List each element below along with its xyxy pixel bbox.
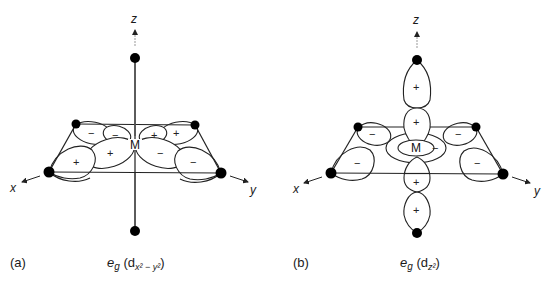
sign-top-inner: +	[413, 116, 419, 128]
sign-bottom-inner: +	[413, 176, 419, 188]
ligand-back-left	[354, 123, 363, 132]
ligand-bottom	[412, 228, 422, 238]
octahedral-eg-orbitals-diagram: z x y − − + + + + −	[0, 0, 558, 282]
sign-back-inner-left: −	[112, 129, 118, 141]
lobe-front-right	[460, 148, 503, 181]
sign-back-right: −	[455, 128, 461, 140]
sign-front-inner-right: −	[157, 147, 163, 159]
ligand-top	[130, 53, 140, 63]
sign-front-right: −	[190, 156, 196, 168]
panel-b: z x y + + + + − − − − − M	[292, 13, 541, 272]
sign-front-left: −	[354, 157, 360, 169]
sign-top-outer: +	[413, 81, 419, 93]
sign-back-left: −	[88, 127, 94, 139]
x-axis-arrow-icon	[22, 176, 40, 182]
ligand-front-left	[44, 167, 55, 178]
y-axis-arrow-icon	[512, 177, 530, 183]
x-axis-arrow-icon	[304, 177, 322, 183]
sign-front-inner-left: +	[107, 147, 113, 159]
y-axis-arrow-icon	[230, 176, 248, 182]
sign-bottom-outer: +	[413, 204, 419, 216]
sign-back-inner-right: +	[151, 129, 157, 141]
panel-tag-a: (a)	[10, 255, 26, 270]
panel-tag-b: (b)	[293, 255, 309, 270]
ligand-top	[412, 55, 422, 65]
ligand-back-right	[472, 123, 481, 132]
metal-center-label: M	[130, 138, 140, 152]
sign-torus: −	[432, 142, 438, 154]
z-axis-label: z	[412, 13, 419, 27]
x-axis-label: x	[292, 182, 300, 196]
ligand-back-right	[191, 121, 200, 130]
sign-front-right: −	[474, 157, 480, 169]
sign-back-left: −	[369, 128, 375, 140]
sign-back-right: +	[173, 127, 179, 139]
lobe-front-right	[175, 147, 221, 180]
lobe-front-left	[331, 147, 374, 180]
x-axis-label: x	[9, 181, 17, 195]
y-axis-label: y	[533, 184, 541, 198]
panel-a: z x y − − + + + + −	[9, 12, 257, 272]
y-axis-label: y	[249, 183, 257, 197]
z-axis-label: z	[130, 12, 137, 26]
metal-center-label: M	[411, 141, 421, 155]
caption-a: eg (dx² − y²)	[107, 255, 165, 272]
sign-front-left: +	[73, 156, 79, 168]
caption-b: eg (dz²)	[400, 255, 440, 272]
ligand-bottom	[130, 226, 140, 236]
ligand-front-right	[498, 169, 509, 180]
ligand-back-left	[72, 120, 81, 129]
ligand-front-left	[326, 168, 337, 179]
ligand-front-right	[216, 168, 227, 179]
